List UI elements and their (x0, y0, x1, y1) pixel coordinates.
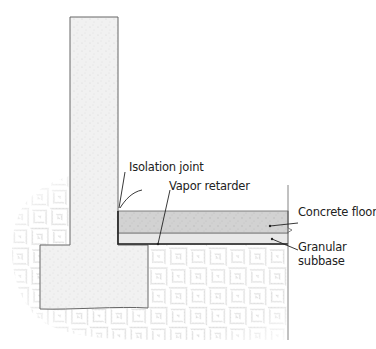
section-drawing (0, 0, 376, 349)
label-vapor-retarder: Vapor retarder (169, 180, 250, 193)
granular-subbase (118, 233, 288, 244)
label-granular: Granular (298, 241, 347, 254)
concrete-floor (118, 211, 288, 233)
label-isolation-joint: Isolation joint (129, 161, 204, 174)
label-concrete-floor: Concrete floor (298, 206, 376, 219)
label-subbase: subbase (298, 255, 345, 268)
diagram-canvas: Isolation joint Vapor retarder Concrete … (0, 0, 376, 349)
